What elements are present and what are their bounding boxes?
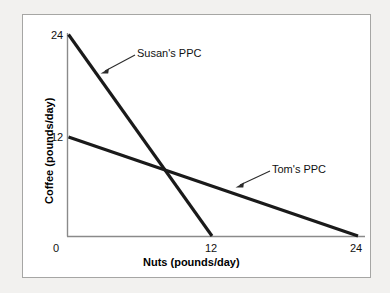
y-axis-title: Coffee (pounds/day) bbox=[43, 98, 55, 204]
annotation-label-toms-ppc: Tom's PPC bbox=[272, 163, 326, 175]
annotation-arrow-toms-ppc bbox=[236, 171, 271, 188]
x-tick-label-24: 24 bbox=[350, 242, 362, 254]
chart-page: 24 12 0 12 24 Coffee (pounds/day) Nuts (… bbox=[0, 0, 390, 293]
annotation-label-susans-ppc: Susan's PPC bbox=[137, 47, 201, 59]
annotation-arrow-susans-ppc bbox=[101, 55, 136, 74]
y-tick-label-24: 24 bbox=[51, 29, 63, 41]
x-tick-label-0: 0 bbox=[53, 242, 59, 254]
series-line-toms-ppc bbox=[69, 137, 359, 236]
x-tick-label-12: 12 bbox=[205, 242, 217, 254]
series-line-susans-ppc bbox=[69, 35, 213, 237]
x-axis-title: Nuts (pounds/day) bbox=[143, 256, 240, 268]
